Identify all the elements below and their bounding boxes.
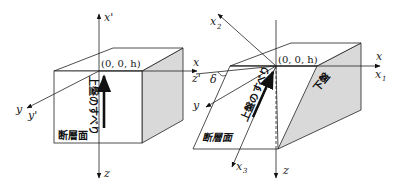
left-x-right-label: x (193, 56, 200, 69)
hanging-wall-slip-label: 上盤のすべり (88, 76, 100, 135)
x3-subscript: 3 (243, 167, 248, 175)
right-x-label: x (376, 50, 383, 63)
y-prime-label: y' (27, 109, 37, 122)
x2-axis (218, 14, 276, 66)
right-y-label: y (192, 99, 200, 112)
x-prime-label: x' (104, 11, 113, 24)
dip-angle-label: δ (210, 73, 217, 86)
z-label: z (103, 167, 110, 180)
dip-angle-arc (218, 72, 226, 76)
y-label: y (15, 103, 23, 116)
origin-label: (0, 0, h) (101, 58, 141, 69)
fault-diagram: x' z (0, 0, h) y y' 断層面 上盤のすべり x z' (0, 0, 397, 187)
x2-label: x (210, 15, 217, 28)
x1-label: x (375, 68, 382, 81)
right-origin-label: (0, 0, h) (278, 54, 318, 65)
right-fault-plane-label: 断層面 (202, 132, 234, 143)
left-fault-block: x' z (0, 0, h) y y' 断層面 上盤のすべり (15, 11, 197, 180)
x1-subscript: 1 (382, 75, 386, 83)
x2-subscript: 2 (216, 23, 222, 31)
x3-label: x (236, 160, 243, 173)
right-z-label: z (282, 164, 289, 177)
right-fault-block: x 2 (0, 0, h) δ y x x 1 x 3 z 断層面 下盤 上盤の… (192, 14, 386, 178)
fault-plane-label: 断層面 (58, 129, 88, 141)
